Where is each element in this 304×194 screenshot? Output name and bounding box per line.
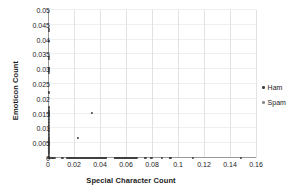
chart-legend: HamSpam <box>262 80 304 110</box>
data-point-ham <box>105 157 107 159</box>
data-point-ham <box>54 157 56 159</box>
gridline-vertical <box>178 10 179 158</box>
y-tick-label: 0.005 <box>32 140 50 147</box>
plot-area <box>48 10 256 158</box>
data-point-ham <box>48 30 50 32</box>
data-point-ham <box>77 137 79 139</box>
x-tick-label: 0.1 <box>173 161 183 168</box>
y-axis-title: Emoticon Count <box>11 36 20 146</box>
y-tick-label: 0.01 <box>36 125 50 132</box>
gridline-vertical <box>126 10 127 158</box>
legend-marker-icon <box>262 86 265 89</box>
data-point-ham <box>61 157 63 159</box>
legend-item-ham[interactable]: Ham <box>262 80 304 95</box>
gridline-vertical <box>256 10 257 158</box>
data-point-ham <box>151 157 153 159</box>
legend-label: Spam <box>268 99 286 106</box>
data-point-ham <box>240 157 242 159</box>
y-tick-label: 0.015 <box>32 110 50 117</box>
gridline-vertical <box>74 10 75 158</box>
gridline-vertical <box>152 10 153 158</box>
x-tick-label: 0.04 <box>93 161 107 168</box>
data-point-ham <box>169 157 171 159</box>
legend-label: Ham <box>268 84 283 91</box>
y-tick-label: 0.035 <box>32 51 50 58</box>
x-tick-label: 0.16 <box>249 161 263 168</box>
x-tick-label: 0.08 <box>145 161 159 168</box>
data-point-ham <box>48 92 50 94</box>
y-tick-label: 0.025 <box>32 81 50 88</box>
y-tick-label: 0.045 <box>32 21 50 28</box>
x-tick-label: 0 <box>46 161 50 168</box>
x-tick-label: 0.12 <box>197 161 211 168</box>
data-point-ham <box>192 157 194 159</box>
scatter-chart: 00.0050.010.0150.020.0250.030.0350.040.0… <box>0 0 304 194</box>
gridline-vertical <box>100 10 101 158</box>
gridline-vertical <box>230 10 231 158</box>
legend-marker-icon <box>262 101 265 104</box>
x-tick-label: 0.14 <box>223 161 237 168</box>
y-tick-label: 0.02 <box>36 95 50 102</box>
y-tick-label: 0.04 <box>36 36 50 43</box>
x-tick-label: 0.06 <box>119 161 133 168</box>
data-point-ham <box>48 58 50 60</box>
y-tick-label: 0.05 <box>36 7 50 14</box>
data-point-ham <box>135 157 137 159</box>
legend-item-spam[interactable]: Spam <box>262 95 304 110</box>
y-tick-label: 0.03 <box>36 66 50 73</box>
gridline-vertical <box>204 10 205 158</box>
data-point-ham <box>161 157 163 159</box>
x-axis-title: Special Character Count <box>0 176 262 185</box>
x-tick-label: 0.02 <box>67 161 81 168</box>
data-point-ham <box>145 157 147 159</box>
